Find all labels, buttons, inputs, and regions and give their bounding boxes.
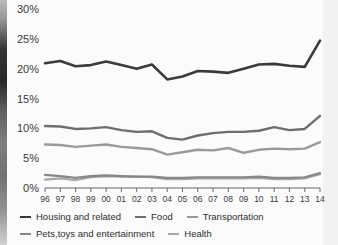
legend-dash-transportation xyxy=(187,216,198,218)
x-tick-label: 99 xyxy=(86,194,96,204)
y-tick-label: 5% xyxy=(23,152,39,164)
legend-item-food[interactable]: Food xyxy=(135,212,173,222)
x-tick-label: 03 xyxy=(147,194,157,204)
legend-dash-housing-and-related xyxy=(20,216,31,218)
x-tick-label: 09 xyxy=(239,194,249,204)
legend-row-2: Pets,toys and entertainment Health xyxy=(20,225,320,242)
legend-dash-health xyxy=(168,233,179,235)
series-line-pets-toys-and-entertainment xyxy=(45,173,320,178)
series-line-food xyxy=(45,116,320,140)
y-tick-label: 30% xyxy=(17,3,39,15)
x-tick-label: 10 xyxy=(254,194,264,204)
legend-row-1: Housing and related Food Transportation xyxy=(20,208,320,225)
x-tick-label: 04 xyxy=(162,194,172,204)
x-tick-label: 08 xyxy=(224,194,234,204)
x-tick-label: 07 xyxy=(208,194,218,204)
y-tick-label: 10% xyxy=(17,122,39,134)
legend-label-health: Health xyxy=(184,229,211,239)
legend-item-health[interactable]: Health xyxy=(168,229,211,239)
series-line-housing-and-related xyxy=(45,41,320,80)
series-line-transportation xyxy=(45,142,320,155)
x-tick-label: 06 xyxy=(193,194,203,204)
x-tick-label: 00 xyxy=(101,194,111,204)
legend-label-pets-toys-and-entertainment: Pets,toys and entertainment xyxy=(36,229,154,239)
plot-area: 0%5%10%15%20%25%30%969798990001020304050… xyxy=(0,0,338,207)
legend-item-transportation[interactable]: Transportation xyxy=(187,212,264,222)
x-tick-label: 05 xyxy=(178,194,188,204)
legend-dash-food xyxy=(135,216,146,218)
x-tick-label: 12 xyxy=(285,194,295,204)
x-tick-label: 14 xyxy=(315,194,325,204)
y-tick-label: 20% xyxy=(17,63,39,75)
x-tick-label: 13 xyxy=(300,194,310,204)
x-tick-label: 01 xyxy=(117,194,127,204)
legend-label-housing-and-related: Housing and related xyxy=(36,212,121,222)
x-tick-label: 96 xyxy=(40,194,50,204)
line-chart-svg: 0%5%10%15%20%25%30%969798990001020304050… xyxy=(0,0,338,207)
x-tick-label: 97 xyxy=(56,194,66,204)
y-tick-label: 15% xyxy=(17,93,39,105)
y-tick-label: 0% xyxy=(23,182,39,194)
legend-label-transportation: Transportation xyxy=(203,212,264,222)
x-tick-label: 02 xyxy=(132,194,142,204)
legend-label-food: Food xyxy=(151,212,173,222)
legend-dash-pets-toys-and-entertainment xyxy=(20,233,31,235)
y-tick-label: 25% xyxy=(17,33,39,45)
x-tick-label: 11 xyxy=(270,194,279,204)
x-tick-label: 98 xyxy=(71,194,81,204)
chart-legend: Housing and related Food Transportation … xyxy=(20,208,320,242)
legend-item-housing-and-related[interactable]: Housing and related xyxy=(20,212,121,222)
legend-item-pets-toys-and-entertainment[interactable]: Pets,toys and entertainment xyxy=(20,229,154,239)
chart-figure: 0%5%10%15%20%25%30%969798990001020304050… xyxy=(0,0,338,245)
